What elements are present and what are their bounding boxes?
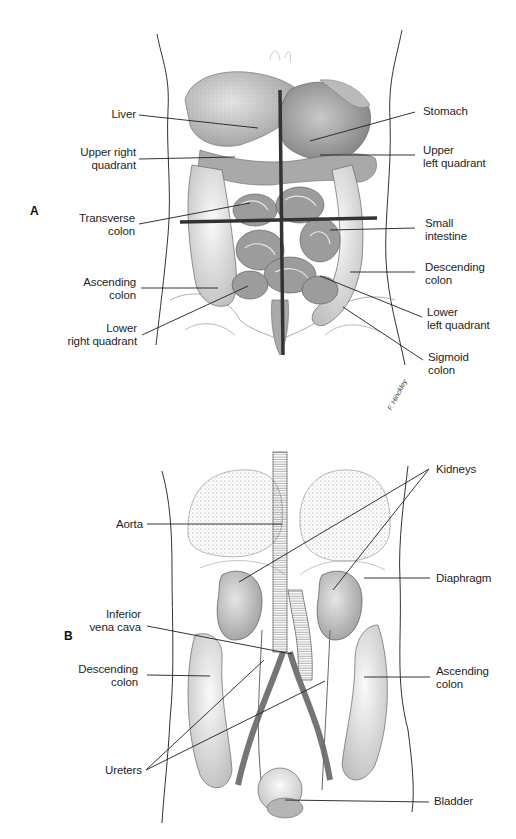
panel-a-illustration [156, 30, 405, 365]
label-descending-colon-a: Descending colon [425, 261, 485, 286]
label-upper-left-quadrant: Upper left quadrant [423, 144, 486, 169]
label-stomach: Stomach [423, 105, 468, 118]
label-transverse-colon: Transverse colon [79, 212, 135, 237]
label-upper-right-quadrant: Upper right quadrant [80, 146, 136, 171]
panel-b-letter: B [64, 629, 73, 643]
label-ascending-colon: Ascending colon [83, 276, 136, 301]
label-lower-left-quadrant: Lower left quadrant [427, 306, 490, 331]
label-kidneys: Kidneys [436, 463, 476, 476]
label-lower-right-quadrant: Lower right quadrant [67, 322, 137, 347]
label-sigmoid-colon: Sigmoid colon [428, 351, 469, 376]
panel-a-letter: A [30, 204, 39, 218]
panel-b-illustration [162, 452, 413, 823]
label-ureters: Ureters [105, 764, 142, 777]
anatomy-illustration [0, 0, 516, 839]
label-aorta: Aorta [116, 518, 143, 531]
label-bladder: Bladder [434, 795, 473, 808]
label-inferior-vena-cava: Inferior vena cava [89, 608, 141, 633]
label-diaphragm: Diaphragm [436, 572, 491, 585]
label-ascending-colon-b: Ascending colon [436, 665, 489, 690]
label-liver: Liver [112, 108, 136, 121]
label-small-intestine: Small intestine [425, 217, 467, 242]
label-descending-colon-b: Descending colon [78, 663, 138, 688]
